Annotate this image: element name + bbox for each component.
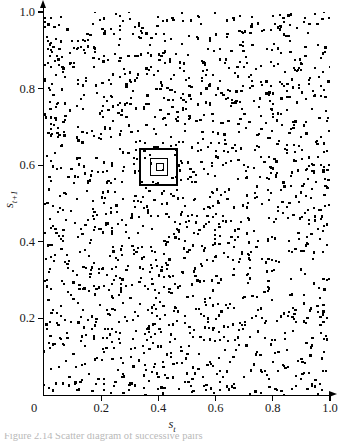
scatter-point: [246, 274, 248, 276]
scatter-point: [155, 33, 157, 35]
scatter-point: [323, 288, 325, 290]
scatter-point: [159, 318, 161, 320]
scatter-point: [95, 383, 97, 385]
scatter-point: [115, 331, 117, 333]
scatter-point: [164, 40, 166, 42]
scatter-point: [214, 238, 216, 240]
scatter-point: [64, 115, 66, 117]
scatter-point: [198, 353, 200, 355]
scatter-point: [323, 12, 325, 13]
scatter-point: [94, 324, 96, 326]
scatter-point: [172, 323, 174, 325]
scatter-point: [184, 130, 186, 132]
scatter-point: [152, 323, 154, 325]
scatter-point: [277, 351, 279, 353]
scatter-point: [214, 340, 216, 342]
scatter-point: [119, 38, 121, 40]
scatter-point: [244, 321, 246, 323]
scatter-point: [226, 33, 228, 35]
scatter-point: [197, 142, 199, 144]
scatter-point: [319, 324, 321, 326]
scatter-point: [206, 215, 208, 217]
scatter-point: [243, 164, 245, 166]
scatter-point: [316, 305, 318, 307]
scatter-point: [155, 297, 157, 299]
scatter-point: [46, 36, 48, 38]
scatter-point: [70, 62, 72, 64]
scatter-point: [171, 89, 173, 91]
scatter-point: [224, 143, 226, 145]
scatter-point: [267, 189, 269, 191]
scatter-point: [95, 157, 97, 159]
scatter-point: [82, 108, 84, 110]
scatter-point: [269, 100, 271, 102]
scatter-point: [244, 324, 246, 326]
scatter-point: [69, 109, 71, 111]
scatter-point: [281, 201, 283, 203]
scatter-point: [65, 219, 67, 221]
scatter-point: [304, 55, 306, 57]
scatter-point: [276, 119, 278, 121]
scatter-point: [215, 213, 217, 215]
scatter-point: [247, 217, 249, 219]
scatter-point: [147, 211, 149, 213]
scatter-point: [305, 98, 307, 100]
scatter-point: [194, 372, 196, 374]
scatter-point: [202, 376, 204, 378]
scatter-point: [103, 161, 105, 163]
scatter-point: [103, 96, 105, 98]
scatter-point: [218, 142, 220, 144]
scatter-point: [230, 160, 232, 162]
scatter-point: [243, 66, 245, 68]
scatter-point: [253, 167, 255, 169]
scatter-point: [203, 339, 205, 341]
scatter-point: [60, 315, 62, 317]
scatter-point: [233, 19, 235, 21]
scatter-point: [215, 155, 217, 157]
scatter-point: [248, 76, 250, 78]
scatter-point: [73, 62, 75, 64]
scatter-point: [203, 62, 205, 64]
scatter-point: [57, 324, 59, 326]
scatter-point: [328, 278, 330, 280]
scatter-point: [271, 339, 273, 341]
scatter-point: [289, 51, 291, 53]
scatter-point: [307, 209, 309, 211]
scatter-point: [246, 62, 248, 64]
scatter-point: [308, 23, 310, 25]
scatter-point: [109, 127, 111, 129]
scatter-point: [133, 253, 135, 255]
scatter-point: [227, 307, 229, 309]
scatter-point: [83, 326, 85, 328]
scatter-point: [180, 179, 182, 181]
scatter-point: [106, 181, 108, 183]
scatter-point: [95, 84, 97, 86]
scatter-point: [50, 160, 52, 162]
scatter-point: [234, 239, 236, 241]
scatter-point: [160, 345, 162, 347]
scatter-point: [115, 275, 117, 277]
scatter-point: [135, 330, 137, 332]
scatter-point: [146, 73, 148, 75]
scatter-point: [206, 259, 208, 261]
scatter-point: [305, 244, 307, 246]
scatter-point: [315, 181, 317, 183]
scatter-point: [184, 205, 186, 207]
scatter-point: [326, 338, 328, 340]
scatter-point: [238, 329, 240, 331]
scatter-point: [324, 178, 326, 180]
scatter-point: [110, 136, 112, 138]
scatter-point: [99, 112, 101, 114]
scatter-point: [248, 241, 250, 243]
scatter-point: [219, 370, 221, 372]
scatter-point: [267, 258, 269, 260]
scatter-point: [119, 133, 121, 135]
scatter-point: [233, 246, 235, 248]
scatter-point: [167, 113, 169, 115]
scatter-point: [223, 325, 225, 327]
scatter-point: [158, 292, 160, 294]
scatter-point: [147, 288, 149, 290]
scatter-point: [287, 366, 289, 368]
scatter-point: [300, 268, 302, 270]
scatter-point: [165, 262, 167, 264]
